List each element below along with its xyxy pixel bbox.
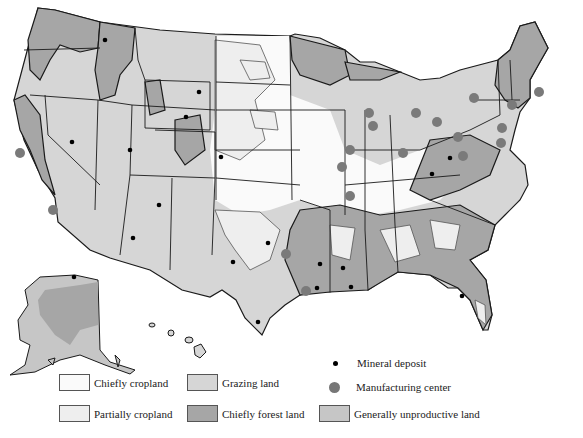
manufacturing-center-marker xyxy=(281,249,291,259)
legend-manufacturing-center: Manufacturing center xyxy=(328,381,451,393)
mineral-deposit-marker xyxy=(266,241,271,246)
mineral-deposit-marker xyxy=(315,286,320,291)
hawaii xyxy=(149,323,206,358)
land-use-map xyxy=(0,0,583,438)
mineral-deposit-marker xyxy=(448,156,453,161)
swatch-chiefly-forest-land xyxy=(187,405,218,422)
legend-label: Mineral deposit xyxy=(357,357,426,369)
manufacturing-center-marker xyxy=(469,93,479,103)
legend-chiefly-cropland: Chiefly cropland xyxy=(59,374,168,391)
manufacturing-center-marker xyxy=(497,123,507,133)
manufacturing-center-marker xyxy=(534,87,544,97)
mineral-deposit-marker xyxy=(231,260,236,265)
mineral-deposit-marker xyxy=(341,266,346,271)
mineral-deposit-marker xyxy=(219,155,224,160)
mineral-deposit-marker xyxy=(197,90,202,95)
mineral-deposit-marker xyxy=(157,203,162,208)
swatch-chiefly-cropland xyxy=(59,374,90,391)
legend-label: Partially cropland xyxy=(94,408,173,420)
swatch-partially-cropland xyxy=(59,405,90,422)
mineral-deposit-icon xyxy=(333,361,338,366)
manufacturing-center-marker xyxy=(398,148,408,158)
manufacturing-center-marker xyxy=(337,162,347,172)
legend-mineral-deposit: Mineral deposit xyxy=(329,357,426,369)
manufacturing-center-marker xyxy=(507,100,517,110)
manufacturing-center-marker xyxy=(345,191,355,201)
manufacturing-center-icon xyxy=(329,382,340,393)
alaska xyxy=(10,275,135,375)
mineral-deposit-marker xyxy=(103,38,108,43)
manufacturing-center-marker xyxy=(345,145,355,155)
mineral-deposit-marker xyxy=(184,115,189,120)
manufacturing-center-marker xyxy=(15,148,25,158)
legend-label: Manufacturing center xyxy=(356,381,451,393)
mineral-deposit-marker xyxy=(70,140,75,145)
legend-label: Chiefly forest land xyxy=(222,408,304,420)
legend-partially-cropland: Partially cropland xyxy=(59,405,173,422)
legend-label: Chiefly cropland xyxy=(94,377,168,389)
forest-southeast xyxy=(285,205,495,330)
mineral-deposit-marker xyxy=(128,148,133,153)
manufacturing-center-marker xyxy=(453,132,463,142)
swatch-grazing-land xyxy=(187,374,218,391)
manufacturing-center-marker xyxy=(364,108,374,118)
legend-unproductive-land: Generally unproductive land xyxy=(319,405,480,422)
manufacturing-center-marker xyxy=(458,151,468,161)
mineral-deposit-marker xyxy=(318,262,323,267)
legend-chiefly-forest-land: Chiefly forest land xyxy=(187,405,304,422)
manufacturing-center-marker xyxy=(411,108,421,118)
mineral-deposit-marker xyxy=(256,320,261,325)
mineral-deposit-marker xyxy=(72,275,77,280)
manufacturing-center-marker xyxy=(432,117,442,127)
manufacturing-center-marker xyxy=(48,205,58,215)
mineral-deposit-marker xyxy=(430,172,435,177)
swatch-unproductive-land xyxy=(319,405,350,422)
mineral-deposit-marker xyxy=(460,294,465,299)
mineral-deposit-marker xyxy=(131,236,136,241)
legend-grazing-land: Grazing land xyxy=(187,374,279,391)
legend-label: Grazing land xyxy=(222,377,279,389)
legend-label: Generally unproductive land xyxy=(354,408,480,420)
manufacturing-center-marker xyxy=(496,138,506,148)
manufacturing-center-marker xyxy=(301,286,311,296)
mineral-deposit-marker xyxy=(349,285,354,290)
manufacturing-center-marker xyxy=(368,121,378,131)
